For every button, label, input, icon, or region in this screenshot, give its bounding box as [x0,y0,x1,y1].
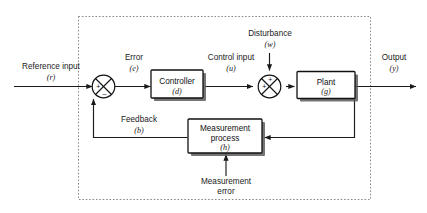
controller-symbol: (d) [172,87,182,96]
control-block-diagram: + – + + Controller (d) Plant (g) [0,0,427,213]
disturbance-symbol: (w) [265,40,276,49]
reference-input-text: Reference input [22,62,81,71]
plant-symbol: (g) [321,87,331,96]
output-symbol: (y) [389,64,398,73]
label-feedback: Feedback (b) [121,115,158,135]
feedback-text: Feedback [121,115,158,124]
error-text: Error [125,53,143,62]
system-boundary-dashed-box [79,17,371,200]
error-symbol: (e) [129,64,138,73]
measurement-error-text-line1: Measurement [201,177,252,186]
control-input-text: Control input [208,53,255,62]
label-error: Error (e) [125,53,143,73]
feedback-symbol: (b) [134,126,144,135]
block-plant[interactable]: Plant (g) [297,72,358,102]
disturbance-junction-sign-left: + [262,83,266,90]
measurement-process-symbol: (h) [220,143,230,152]
diagram-canvas: + – + + Controller (d) Plant (g) [0,0,427,213]
summing-junction-disturbance: + + [258,75,281,98]
reference-input-symbol: (r) [47,73,56,82]
error-junction-sign-left: + [96,83,100,90]
measurement-process-label-line2: process [211,134,240,143]
block-measurement-process[interactable]: Measurement process (h) [188,119,265,156]
error-junction-sign-bottom: – [103,90,107,97]
disturbance-junction-sign-top: + [268,76,272,83]
measurement-error-text-line2: error [217,187,235,196]
label-control-input: Control input (u) [208,53,255,73]
block-controller[interactable]: Controller (d) [151,70,206,101]
control-input-symbol: (u) [226,64,236,73]
measurement-process-label-line1: Measurement [200,124,251,133]
summing-junction-error: + – [92,75,115,98]
plant-label: Plant [317,78,336,87]
disturbance-text: Disturbance [248,29,292,38]
label-disturbance: Disturbance (w) [248,29,292,49]
label-output: Output (y) [382,53,407,73]
controller-label: Controller [159,77,195,86]
label-reference-input: Reference input (r) [22,62,81,82]
label-measurement-error: Measurement error [201,177,252,196]
output-text: Output [382,53,407,62]
